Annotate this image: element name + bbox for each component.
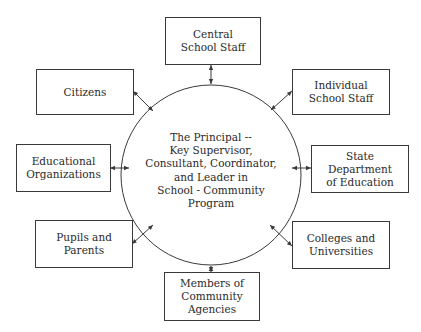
node-label: Educational Organizations <box>26 155 101 181</box>
node-label: Citizens <box>64 86 107 99</box>
node-state-department-of-education: State Department of Education <box>311 145 409 193</box>
connector-colleges-and-universities <box>270 225 292 246</box>
node-educational-organizations: Educational Organizations <box>16 144 111 192</box>
node-label: Members of Community Agencies <box>180 277 244 316</box>
connector-citizens <box>133 91 153 111</box>
node-label: Individual School Staff <box>309 79 373 105</box>
node-central-school-staff: Central School Staff <box>165 17 261 65</box>
connector-individual-school-staff <box>271 91 292 110</box>
node-colleges-and-universities: Colleges and Universities <box>292 221 390 269</box>
node-label: Colleges and Universities <box>307 232 376 258</box>
node-individual-school-staff: Individual School Staff <box>292 69 390 115</box>
node-pupils-and-parents: Pupils and Parents <box>35 220 133 268</box>
node-citizens: Citizens <box>36 69 134 115</box>
node-label: State Department of Education <box>326 150 394 189</box>
node-label: Pupils and Parents <box>56 231 112 257</box>
node-label: Central School Staff <box>181 28 245 54</box>
principal-label: The Principal -- Key Supervisor, Consult… <box>121 131 301 210</box>
node-members-of-community-agencies: Members of Community Agencies <box>164 272 260 321</box>
